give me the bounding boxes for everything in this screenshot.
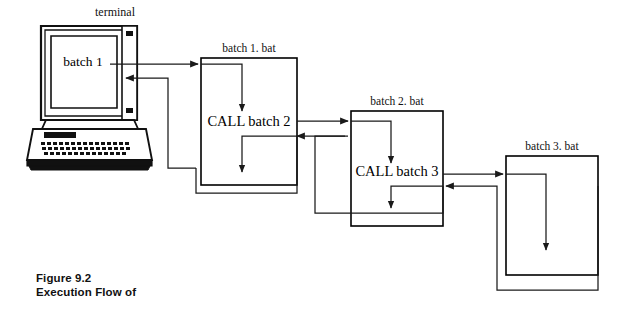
batch1-body-text: CALL batch 2 — [207, 113, 290, 129]
figure-container: batch 1 — [0, 0, 623, 310]
monitor-side-panel — [122, 26, 137, 120]
figure-caption-line2: Execution Flow of — [36, 286, 136, 300]
batch1-title: batch 1. bat — [222, 42, 276, 54]
figure-caption-line1: Figure 9.2 — [36, 272, 136, 286]
terminal-label: terminal — [95, 5, 136, 19]
batch3-title: batch 3. bat — [525, 140, 579, 152]
terminal-screen-text: batch 1 — [63, 54, 102, 69]
execution-flow-diagram: batch 1 — [0, 0, 623, 310]
monitor-indicator-top — [126, 31, 133, 36]
disk-drive-slot — [44, 132, 76, 138]
batch3-group: batch 3. bat — [506, 140, 598, 275]
flow-batch3-entry-to-bottom — [506, 174, 546, 250]
batch2-title: batch 2. bat — [370, 95, 424, 107]
monitor-screen — [51, 36, 117, 108]
flow-batch2-return-to-bottom — [391, 186, 443, 208]
keyboard-shadow — [29, 166, 150, 170]
figure-caption: Figure 9.2 Execution Flow of — [36, 272, 136, 299]
flow-batch1-return-to-bottom — [242, 136, 297, 172]
keyboard-front-edge — [27, 160, 152, 166]
monitor-indicator-bottom — [126, 108, 133, 113]
flow-batch1-entry-to-call — [201, 64, 242, 111]
terminal-illustration: batch 1 — [27, 5, 152, 170]
batch2-body-text: CALL batch 3 — [355, 163, 438, 179]
batch2-group: batch 2. bat CALL batch 3 — [351, 95, 443, 226]
flow-batch2-entry-to-call — [351, 121, 391, 163]
